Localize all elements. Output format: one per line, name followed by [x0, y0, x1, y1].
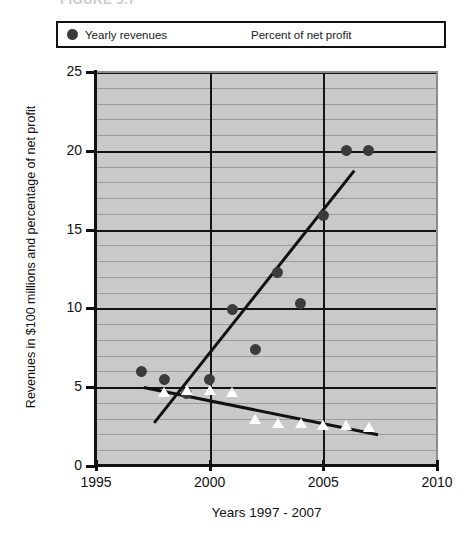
- y-axis-tick: [86, 150, 97, 153]
- data-point-percent-of-net-profit: [363, 422, 375, 432]
- x-axis-tick-label: 1995: [66, 474, 126, 490]
- legend-item-percent-of-net-profit: Percent of net profit: [251, 29, 351, 41]
- y-axis-tick-label: 20: [36, 142, 82, 158]
- figure-title-text: FIGURE 5.7: [60, 0, 440, 5]
- gridline-major: [96, 230, 437, 232]
- plot-top-border: [96, 71, 438, 73]
- data-point-yearly-revenues: [158, 373, 171, 386]
- gridline-vertical: [323, 72, 325, 466]
- gridline-minor: [96, 356, 437, 357]
- y-axis-line: [94, 70, 97, 468]
- gridline-minor: [96, 119, 437, 120]
- x-axis-tick-label: 2010: [407, 474, 467, 490]
- data-point-percent-of-net-profit: [295, 418, 307, 428]
- y-axis-tick-label: 25: [36, 63, 82, 79]
- gridline-minor: [96, 245, 437, 246]
- data-point-percent-of-net-profit: [340, 420, 352, 430]
- legend-item-yearly-revenues: Yearly revenues: [67, 29, 167, 41]
- y-axis-tick-label: 0: [36, 457, 82, 473]
- x-axis-tick-label: 2005: [293, 474, 353, 490]
- gridline-minor: [96, 182, 437, 183]
- data-point-yearly-revenues: [249, 343, 262, 356]
- x-axis-tick: [209, 460, 212, 471]
- figure-container: FIGURE 5.7 Yearly revenues Percent of ne…: [0, 0, 469, 546]
- gridline-major: [96, 308, 437, 310]
- gridline-minor: [96, 324, 437, 325]
- filled-pentagon-marker-icon: [66, 28, 78, 40]
- data-point-yearly-revenues: [340, 144, 353, 157]
- data-point-percent-of-net-profit: [181, 385, 193, 395]
- plot-right-border: [436, 71, 438, 467]
- plot-area: [96, 72, 437, 466]
- x-axis-tick: [322, 460, 325, 471]
- y-axis-tick: [86, 71, 97, 74]
- y-axis-tick: [86, 386, 97, 389]
- gridline-minor: [96, 450, 437, 451]
- x-axis-tick: [436, 460, 439, 471]
- data-point-percent-of-net-profit: [204, 385, 216, 395]
- x-axis-title: Years 1997 - 2007: [96, 505, 437, 520]
- data-point-yearly-revenues: [362, 144, 375, 157]
- legend-label-percent-of-net-profit: Percent of net profit: [251, 29, 351, 41]
- gridline-minor: [96, 198, 437, 199]
- gridline-minor: [96, 293, 437, 294]
- chart-legend: Yearly revenues Percent of net profit: [56, 21, 446, 48]
- y-axis-tick-label: 15: [36, 221, 82, 237]
- figure-title-cropped: FIGURE 5.7: [60, 0, 440, 10]
- x-axis-tick: [95, 460, 98, 471]
- gridline-minor: [96, 434, 437, 435]
- gridline-minor: [96, 340, 437, 341]
- gridline-minor: [96, 419, 437, 420]
- y-axis-tick: [86, 307, 97, 310]
- y-axis-tick-label: 5: [36, 378, 82, 394]
- data-point-percent-of-net-profit: [226, 387, 238, 397]
- gridline-minor: [96, 167, 437, 168]
- data-point-percent-of-net-profit: [317, 420, 329, 430]
- y-axis-tick: [86, 229, 97, 232]
- data-point-yearly-revenues: [135, 365, 148, 378]
- gridline-minor: [96, 403, 437, 404]
- gridline-vertical: [210, 72, 212, 466]
- data-point-percent-of-net-profit: [249, 414, 261, 424]
- x-axis-line: [94, 464, 439, 467]
- gridline-minor: [96, 371, 437, 372]
- gridline-minor: [96, 214, 437, 215]
- gridline-minor: [96, 104, 437, 105]
- data-point-yearly-revenues: [203, 373, 216, 386]
- data-point-percent-of-net-profit: [158, 387, 170, 397]
- x-axis-tick-label: 2000: [180, 474, 240, 490]
- gridline-major: [96, 151, 437, 153]
- legend-label-yearly-revenues: Yearly revenues: [85, 29, 167, 41]
- gridline-minor: [96, 135, 437, 136]
- data-point-percent-of-net-profit: [272, 418, 284, 428]
- gridline-minor: [96, 261, 437, 262]
- y-axis-tick-label: 10: [36, 299, 82, 315]
- gridline-minor: [96, 88, 437, 89]
- data-point-yearly-revenues: [317, 209, 330, 222]
